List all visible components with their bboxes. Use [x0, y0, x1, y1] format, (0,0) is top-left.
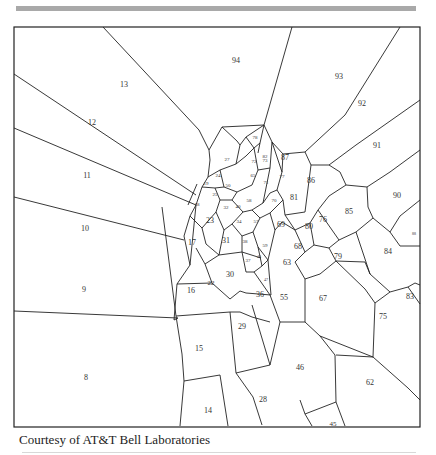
bottom-rule — [22, 452, 416, 453]
cell-edge — [209, 127, 222, 150]
cell-label-48: 48 — [257, 254, 261, 259]
cell-edge — [283, 200, 285, 215]
cell-label-59: 59 — [263, 243, 269, 248]
cell-edge — [103, 27, 199, 130]
cell-label-67: 67 — [319, 294, 327, 303]
cell-edge — [368, 207, 373, 218]
cell-edge — [184, 216, 190, 236]
cell-edge — [320, 261, 336, 274]
cell-label-15: 15 — [195, 344, 203, 353]
cell-edge — [202, 228, 206, 244]
cell-label-72: 72 — [252, 159, 258, 164]
cell-edge — [219, 252, 242, 255]
cell-label-17: 17 — [188, 238, 196, 247]
cell-edge — [390, 232, 400, 246]
cell-edge — [242, 232, 253, 236]
cell-label-12: 12 — [88, 118, 96, 127]
cell-edge — [209, 150, 210, 160]
cell-label-23: 23 — [206, 216, 214, 225]
cell-label-38: 38 — [243, 239, 249, 244]
cell-edge — [14, 197, 184, 240]
cell-edge — [212, 283, 230, 299]
cell-label-91: 91 — [373, 141, 381, 150]
cell-label-71: 71 — [264, 180, 270, 185]
cell-edge — [254, 266, 262, 272]
cell-edge — [180, 381, 184, 426]
cell-edge — [336, 261, 365, 262]
cell-edge — [373, 357, 408, 388]
cell-edge — [14, 128, 196, 205]
cell-edge — [375, 292, 390, 303]
cell-edge — [232, 224, 242, 236]
cell-edge — [252, 203, 263, 210]
cell-label-86: 86 — [307, 176, 315, 185]
cell-edge — [336, 261, 365, 289]
cell-edge — [246, 148, 254, 156]
cell-label-9: 9 — [82, 285, 86, 294]
cell-label-19: 19 — [204, 181, 210, 186]
cell-edge — [220, 375, 228, 426]
cell-edge — [390, 216, 400, 232]
cell-edge — [222, 125, 264, 127]
cell-edge — [176, 312, 230, 316]
cell-edge — [262, 260, 268, 266]
cell-edge — [252, 210, 260, 218]
cell-edge — [236, 373, 253, 397]
voronoi-diagram: 8910111213141516171819222324252728293031… — [0, 0, 436, 455]
cell-edge — [177, 265, 190, 284]
cell-label-94: 94 — [232, 56, 240, 65]
cell-edge — [408, 283, 415, 287]
cell-edge — [356, 232, 370, 274]
cell-edge — [270, 190, 277, 193]
cell-edge — [270, 142, 272, 168]
cell-edge — [253, 232, 258, 247]
cell-label-8: 8 — [84, 373, 88, 382]
cell-edge — [182, 354, 184, 381]
cell-edge — [190, 216, 202, 228]
cell-edge — [340, 172, 346, 185]
cell-edge — [270, 213, 275, 230]
cell-label-22: 22 — [208, 279, 216, 287]
cell-label-36: 36 — [256, 290, 264, 299]
cell-label-93: 93 — [335, 72, 343, 81]
cell-edge — [14, 311, 178, 318]
cell-edge — [305, 402, 336, 414]
cell-label-40: 40 — [236, 204, 242, 209]
cell-edge — [345, 27, 400, 115]
cell-label-29: 29 — [238, 322, 246, 331]
cell-label-47: 47 — [264, 277, 268, 282]
cell-edge — [408, 388, 420, 400]
cell-label-82: 82 — [263, 154, 269, 159]
cell-label-90: 90 — [393, 191, 401, 200]
cell-edge — [285, 215, 295, 230]
cell-label-27: 27 — [225, 157, 231, 162]
cell-edge — [295, 252, 305, 262]
cell-label-55: 55 — [280, 293, 288, 302]
cell-edge — [220, 164, 236, 170]
cell-edges — [14, 27, 420, 426]
cell-edge — [268, 230, 275, 260]
cell-edge — [208, 160, 210, 177]
cell-edge — [264, 27, 292, 125]
cell-edge — [415, 283, 420, 285]
cell-edge — [270, 322, 280, 365]
cell-edge — [305, 152, 311, 165]
cell-edge — [305, 165, 311, 212]
cell-label-75: 75 — [379, 312, 387, 321]
cell-edge — [237, 185, 252, 192]
cell-label-28: 28 — [259, 395, 267, 404]
cell-edge — [202, 187, 215, 188]
cell-edge — [230, 291, 240, 299]
cell-label-57: 57 — [254, 219, 260, 224]
cell-edge — [318, 196, 329, 210]
cell-edge — [216, 200, 220, 212]
cell-label-14: 14 — [204, 406, 212, 415]
cell-label-68: 68 — [294, 242, 302, 251]
cell-label-88: 88 — [412, 231, 416, 236]
cell-label-63: 63 — [283, 258, 291, 267]
cell-label-50: 50 — [226, 183, 232, 188]
cell-edge — [196, 248, 205, 264]
cell-edge — [264, 125, 272, 142]
cell-edge — [305, 115, 345, 152]
cell-label-37: 37 — [246, 258, 252, 263]
